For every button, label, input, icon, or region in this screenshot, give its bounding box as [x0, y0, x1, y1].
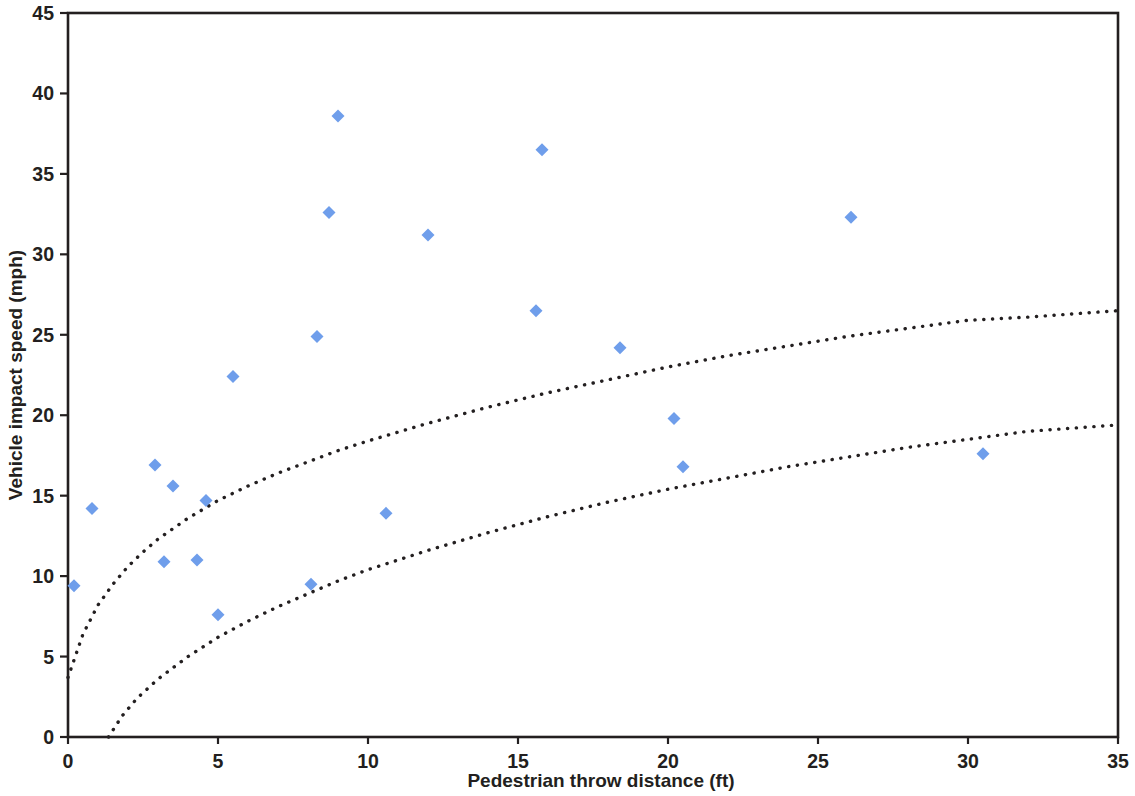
y-tick-label: 45	[32, 2, 54, 24]
plot-border	[68, 13, 1118, 737]
scatter-marker	[614, 341, 627, 354]
x-axis-ticks: 05101520253035	[63, 737, 1129, 772]
bound-curves	[68, 311, 1118, 737]
scatter-marker	[530, 304, 543, 317]
y-axis-title: Vehicle impact speed (mph)	[5, 250, 26, 500]
scatter-marker	[536, 143, 549, 156]
y-axis-ticks: 051015202530354045	[32, 2, 68, 748]
scatter-marker	[845, 211, 858, 224]
scatter-marker	[380, 507, 393, 520]
x-tick-label: 25	[807, 750, 829, 772]
bound-curve	[109, 425, 1119, 737]
y-tick-label: 30	[32, 243, 54, 265]
x-tick-label: 20	[657, 750, 679, 772]
bound-curve	[68, 311, 1118, 678]
y-tick-label: 10	[32, 565, 54, 587]
plot-frame	[68, 13, 1118, 737]
scatter-marker	[149, 459, 162, 472]
x-tick-label: 15	[507, 750, 529, 772]
scatter-marker	[677, 460, 690, 473]
scatter-marker	[323, 206, 336, 219]
x-tick-label: 35	[1107, 750, 1129, 772]
x-tick-label: 30	[957, 750, 979, 772]
scatter-chart-figure: 05101520253035 051015202530354045 Pedest…	[0, 0, 1135, 796]
x-tick-label: 5	[213, 750, 224, 772]
x-tick-label: 10	[357, 750, 379, 772]
scatter-marker	[68, 579, 81, 592]
scatter-marker	[200, 494, 213, 507]
scatter-marker	[332, 109, 345, 122]
chart-canvas: 05101520253035 051015202530354045 Pedest…	[0, 0, 1135, 796]
y-tick-label: 15	[32, 485, 54, 507]
data-points	[68, 109, 990, 621]
scatter-marker	[977, 447, 990, 460]
scatter-marker	[668, 412, 681, 425]
scatter-marker	[227, 370, 240, 383]
scatter-marker	[212, 608, 225, 621]
y-tick-label: 5	[43, 646, 54, 668]
y-tick-label: 0	[43, 726, 54, 748]
x-axis-title: Pedestrian throw distance (ft)	[467, 770, 734, 791]
scatter-marker	[191, 554, 204, 567]
scatter-marker	[305, 578, 318, 591]
scatter-marker	[311, 330, 324, 343]
scatter-marker	[422, 229, 435, 242]
x-tick-label: 0	[63, 750, 74, 772]
y-tick-label: 35	[32, 163, 54, 185]
y-tick-label: 25	[32, 324, 54, 346]
scatter-marker	[158, 555, 171, 568]
y-tick-label: 20	[32, 404, 54, 426]
y-tick-label: 40	[32, 82, 54, 104]
scatter-marker	[86, 502, 99, 515]
scatter-marker	[167, 480, 180, 493]
